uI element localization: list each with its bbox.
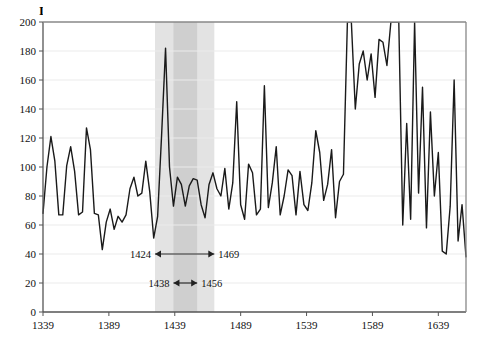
x-tick-label: 1539	[296, 319, 319, 331]
annotation-label-left: 1438	[148, 278, 169, 289]
y-tick-label: 20	[25, 277, 37, 289]
y-tick-label: 80	[25, 190, 37, 202]
y-tick-label: 140	[20, 103, 37, 115]
y-tick-label: 200	[20, 16, 37, 28]
top-mask	[43, 0, 466, 22]
x-tick-label: 1389	[98, 319, 121, 331]
chart-container: Index 0204060801001201401601802001339138…	[0, 0, 481, 344]
y-tick-label: 60	[25, 219, 37, 231]
x-tick-label: 1339	[32, 319, 55, 331]
annotation-label-right: 1469	[218, 249, 239, 260]
annotation-label-right: 1456	[201, 278, 222, 289]
annotation-label-left: 1424	[130, 249, 152, 260]
chart-svg: 0204060801001201401601802001339138914391…	[0, 0, 481, 344]
y-tick-label: 40	[25, 248, 37, 260]
y-tick-label: 160	[20, 74, 37, 86]
y-tick-label: 0	[31, 306, 37, 318]
y-tick-label: 180	[20, 45, 37, 57]
x-tick-label: 1589	[361, 319, 384, 331]
x-tick-label: 1439	[164, 319, 187, 331]
y-tick-label: 120	[20, 132, 37, 144]
y-tick-label: 100	[20, 161, 37, 173]
x-tick-label: 1489	[230, 319, 253, 331]
x-tick-label: 1639	[427, 319, 450, 331]
